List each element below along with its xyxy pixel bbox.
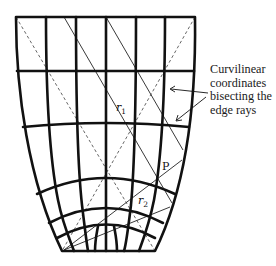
annotation-arrows — [170, 86, 208, 121]
label-point-p: P — [162, 160, 170, 173]
annotation-line-1: Curvilinear — [210, 63, 272, 77]
annotation-line-3: bisecting the — [210, 90, 272, 104]
label-r1: r1 — [116, 101, 126, 116]
annotation-text: Curvilinear coordinates bisecting the ed… — [210, 63, 272, 117]
annotation-line-2: coordinates — [210, 77, 272, 91]
label-r2: r2 — [138, 194, 148, 209]
curvilinear-grid-diagram: r1 r2 P — [0, 0, 276, 266]
annotation-line-4: edge rays — [210, 104, 272, 118]
